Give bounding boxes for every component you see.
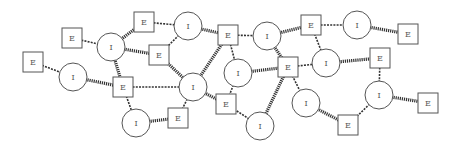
circle-node-i6: I	[224, 59, 252, 87]
square-node-e14: E	[418, 93, 438, 113]
circle-node-i5: I	[122, 109, 150, 137]
circle-node-i3: I	[174, 12, 202, 40]
network-diagram: EIEIEIEEIIEEIEIEIEIIEEIEIE	[0, 0, 461, 152]
node-label: E	[345, 121, 351, 130]
square-node-e2: E	[62, 28, 82, 48]
node-label: E	[405, 30, 411, 39]
node-label: I	[258, 122, 261, 131]
node-label: I	[377, 91, 380, 100]
node-label: E	[175, 114, 181, 123]
square-node-e8: E	[216, 94, 236, 114]
circle-node-i1: I	[59, 63, 87, 91]
node-label: E	[285, 63, 291, 72]
circle-node-i12: I	[365, 81, 393, 109]
node-label: I	[186, 22, 189, 31]
square-node-e11: E	[398, 24, 418, 44]
square-node-e12: E	[370, 48, 390, 68]
square-node-e13: E	[338, 115, 358, 135]
node-label: I	[236, 69, 239, 78]
square-node-e5: E	[113, 77, 133, 97]
square-node-e3: E	[134, 12, 154, 32]
node-label: E	[141, 18, 147, 27]
node-label: I	[324, 59, 327, 68]
node-label: I	[134, 119, 137, 128]
circle-node-i10: I	[343, 11, 371, 39]
square-node-e4: E	[149, 45, 169, 65]
circle-node-i11: I	[292, 89, 320, 117]
node-layer: EIEIEIEEIIEEIEIEIEIIEEIEIE	[23, 11, 438, 140]
circle-node-i9: I	[312, 49, 340, 77]
node-label: I	[355, 21, 358, 30]
node-label: E	[69, 34, 75, 43]
node-label: I	[304, 99, 307, 108]
circle-node-i2: I	[97, 33, 125, 61]
circle-node-i7: I	[253, 22, 281, 50]
square-node-e7: E	[218, 25, 238, 45]
node-label: E	[308, 21, 314, 30]
node-label: E	[120, 83, 126, 92]
node-label: I	[71, 73, 74, 82]
circle-node-i4: I	[179, 73, 207, 101]
node-label: I	[191, 83, 194, 92]
node-label: E	[30, 58, 36, 67]
node-label: E	[156, 51, 162, 60]
node-label: E	[225, 31, 231, 40]
node-label: E	[377, 54, 383, 63]
square-node-e9: E	[278, 57, 298, 77]
node-label: I	[265, 32, 268, 41]
square-node-e10: E	[301, 15, 321, 35]
node-label: E	[425, 99, 431, 108]
node-label: E	[223, 100, 229, 109]
node-label: I	[109, 43, 112, 52]
square-node-e1: E	[23, 52, 43, 72]
square-node-e6: E	[168, 108, 188, 128]
circle-node-i8: I	[246, 112, 274, 140]
